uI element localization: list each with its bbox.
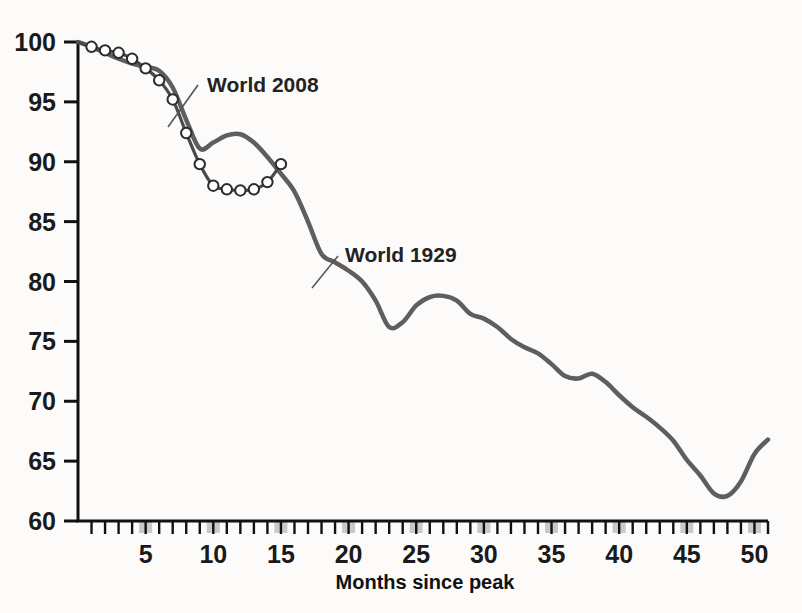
x-tick-label: 15 — [267, 540, 295, 568]
data-point-marker — [168, 94, 178, 104]
line-chart-canvas: 6065707580859095100 5101520253035404550 … — [0, 0, 802, 613]
chart-figure: 6065707580859095100 5101520253035404550 … — [0, 0, 802, 613]
data-point-marker — [222, 184, 232, 194]
x-tick-label: 40 — [605, 540, 633, 568]
data-point-marker — [208, 181, 218, 191]
y-tick-label: 80 — [28, 268, 56, 296]
y-tick-label: 70 — [28, 387, 56, 415]
x-tick-label: 25 — [402, 540, 430, 568]
x-tick-label: 35 — [538, 540, 566, 568]
data-point-marker — [140, 63, 150, 73]
data-point-marker — [249, 184, 259, 194]
x-tick-label: 10 — [199, 540, 227, 568]
y-tick-label: 75 — [28, 327, 56, 355]
data-point-marker — [262, 177, 272, 187]
x-axis-title: Months since peak — [336, 571, 516, 593]
y-tick-label: 95 — [28, 88, 56, 116]
y-tick-label: 100 — [14, 28, 56, 56]
x-tick-label: 45 — [673, 540, 701, 568]
data-point-marker — [195, 159, 205, 169]
x-tick-label: 30 — [470, 540, 498, 568]
data-point-marker — [113, 48, 123, 58]
y-tick-label: 65 — [28, 447, 56, 475]
data-point-marker — [154, 75, 164, 85]
x-tick-label: 50 — [741, 540, 769, 568]
y-tick-label: 90 — [28, 148, 56, 176]
data-point-marker — [276, 159, 286, 169]
data-point-marker — [100, 45, 110, 55]
y-tick-label: 85 — [28, 208, 56, 236]
x-tick-label: 20 — [335, 540, 363, 568]
data-point-marker — [86, 42, 96, 52]
series-label-world-2008: World 2008 — [207, 73, 319, 96]
data-point-marker — [181, 128, 191, 138]
y-tick-label: 60 — [28, 507, 56, 535]
x-tick-label: 5 — [139, 540, 153, 568]
data-point-marker — [235, 185, 245, 195]
data-point-marker — [127, 54, 137, 64]
series-label-world-1929: World 1929 — [345, 243, 457, 266]
